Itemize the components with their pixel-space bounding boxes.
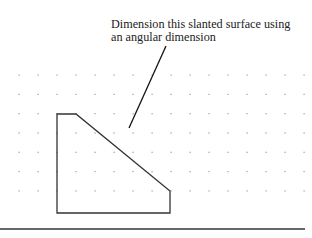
grid-dot [38, 75, 39, 76]
grid-dot [171, 171, 172, 172]
grid-dot [57, 94, 58, 95]
grid-dot [171, 75, 172, 76]
grid-dot [228, 132, 229, 133]
grid-dot [152, 171, 153, 172]
grid-dot [190, 190, 191, 191]
grid-dot [266, 152, 267, 153]
grid-dot [114, 113, 115, 114]
grid-dot [304, 152, 305, 153]
grid-dot [285, 171, 286, 172]
grid-dot [190, 94, 191, 95]
grid-dot [38, 152, 39, 153]
grid-dot [228, 190, 229, 191]
grid-dot [133, 132, 134, 133]
grid-dot [95, 190, 96, 191]
grid-dot [228, 171, 229, 172]
grid-dot [76, 75, 77, 76]
grid-dot [190, 152, 191, 153]
grid-dot [38, 94, 39, 95]
grid-dot [19, 171, 20, 172]
grid-dot [133, 171, 134, 172]
grid-dot [266, 75, 267, 76]
grid-dot [76, 152, 77, 153]
grid-dot [19, 132, 20, 133]
grid-dot [133, 190, 134, 191]
grid-dot [190, 75, 191, 76]
grid-dot [285, 75, 286, 76]
grid-dot [266, 171, 267, 172]
grid-dot [95, 132, 96, 133]
grid-dot [247, 113, 248, 114]
grid-dot [285, 113, 286, 114]
grid-dot [247, 171, 248, 172]
grid-dot [114, 132, 115, 133]
grid-dot [133, 75, 134, 76]
grid-dot [285, 152, 286, 153]
grid-dot [171, 113, 172, 114]
grid-dot [304, 190, 305, 191]
grid-dot [38, 190, 39, 191]
grid-dot [114, 171, 115, 172]
grid-dot [95, 113, 96, 114]
grid-dot [152, 190, 153, 191]
grid-dot [152, 94, 153, 95]
grid-dot [209, 94, 210, 95]
grid-dot [285, 94, 286, 95]
grid-dot [266, 190, 267, 191]
grid-dot [304, 94, 305, 95]
grid-dot [114, 190, 115, 191]
grid-dot [152, 132, 153, 133]
grid-dot [95, 152, 96, 153]
grid-dot [228, 75, 229, 76]
grid-dot [209, 171, 210, 172]
grid-dot [228, 152, 229, 153]
instruction-note: Dimension this slanted surface using an … [111, 18, 290, 44]
grid-dot [266, 132, 267, 133]
grid-dot [304, 75, 305, 76]
grid-dot [266, 94, 267, 95]
grid-dot [190, 113, 191, 114]
grid-dot [247, 132, 248, 133]
grid-dot [133, 152, 134, 153]
grid-dot [209, 152, 210, 153]
grid-dot [19, 190, 20, 191]
grid-dot [228, 94, 229, 95]
note-line-2: an angular dimension [111, 31, 290, 44]
grid-dot [76, 171, 77, 172]
dot-grid [19, 75, 305, 192]
grid-dot [171, 94, 172, 95]
grid-dot [114, 152, 115, 153]
grid-dot [228, 113, 229, 114]
grid-dot [152, 152, 153, 153]
grid-dot [247, 75, 248, 76]
grid-dot [76, 132, 77, 133]
grid-dot [152, 113, 153, 114]
grid-dot [95, 94, 96, 95]
grid-dot [19, 94, 20, 95]
grid-dot [76, 190, 77, 191]
grid-dot [190, 132, 191, 133]
grid-dot [209, 190, 210, 191]
grid-dot [209, 132, 210, 133]
grid-dot [114, 94, 115, 95]
grid-dot [209, 75, 210, 76]
grid-dot [171, 132, 172, 133]
grid-dot [304, 171, 305, 172]
grid-dot [38, 113, 39, 114]
grid-dot [171, 152, 172, 153]
grid-dot [114, 75, 115, 76]
grid-dot [285, 132, 286, 133]
grid-dot [171, 190, 172, 191]
grid-dot [247, 152, 248, 153]
grid-dot [19, 152, 20, 153]
grid-dot [95, 75, 96, 76]
grid-dot [76, 94, 77, 95]
grid-dot [304, 113, 305, 114]
grid-dot [38, 171, 39, 172]
grid-dot [304, 132, 305, 133]
grid-dot [285, 190, 286, 191]
grid-dot [38, 132, 39, 133]
grid-dot [19, 113, 20, 114]
grid-dot [209, 113, 210, 114]
grid-dot [57, 75, 58, 76]
